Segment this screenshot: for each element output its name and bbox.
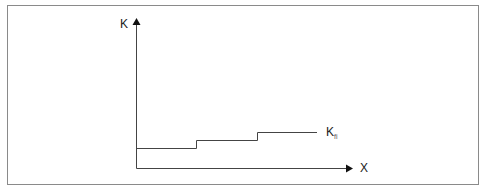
x-axis-arrow-icon: [346, 165, 353, 173]
step-diagram: [0, 0, 486, 194]
x-axis-label: X: [360, 162, 368, 174]
curve-label-main: K: [326, 125, 334, 139]
curve-label: Kfi: [326, 126, 338, 143]
y-axis-arrow-icon: [133, 18, 141, 25]
step-curve: [137, 133, 318, 149]
y-axis-label: K: [120, 18, 128, 30]
curve-label-subscript: fi: [334, 133, 338, 140]
